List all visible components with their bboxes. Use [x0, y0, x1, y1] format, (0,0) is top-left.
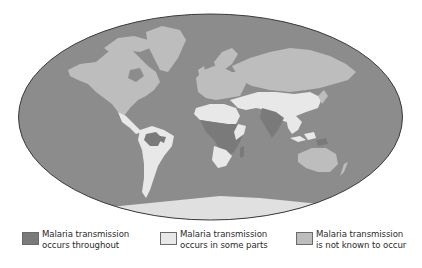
legend-label-line1: Malaria transmission	[316, 229, 406, 240]
legend-swatch-throughout	[22, 232, 39, 245]
legend-label-line2: occurs throughout	[42, 240, 129, 251]
world-malaria-map	[0, 0, 422, 225]
legend-swatch-some-parts	[160, 232, 177, 245]
region-madagascar	[240, 146, 244, 158]
legend-swatch-not-known	[296, 232, 313, 245]
legend-label-line1: Malaria transmission	[180, 229, 268, 240]
legend-label-line1: Malaria transmission	[42, 229, 129, 240]
legend-label-line2: is not known to occur	[316, 240, 406, 251]
legend-label-line2: occurs in some parts	[180, 240, 268, 251]
region-antarctica	[40, 196, 400, 225]
